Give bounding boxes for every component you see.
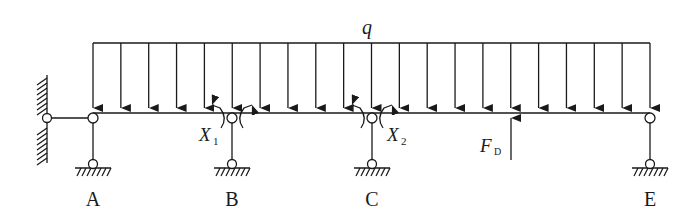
force-fd-subscript: D bbox=[494, 146, 501, 157]
pin-support-b-icon bbox=[214, 113, 250, 176]
load-label-q: q bbox=[362, 16, 372, 39]
support-label-b: B bbox=[225, 188, 238, 210]
pin-support-c-icon bbox=[354, 113, 390, 176]
redundant-moments bbox=[212, 105, 392, 128]
redundant-x1-symbol: X bbox=[198, 124, 212, 145]
pin-support-e-icon bbox=[632, 113, 668, 176]
supports bbox=[75, 113, 668, 176]
beam-diagram: q X 1 X 2 F D A B C E bbox=[0, 0, 699, 222]
wall-hinge-icon bbox=[43, 114, 52, 123]
redundant-x1-subscript: 1 bbox=[213, 135, 219, 147]
pin-support-a-icon bbox=[75, 113, 111, 176]
support-label-a: A bbox=[86, 188, 101, 210]
redundant-x2-symbol: X bbox=[386, 124, 400, 145]
support-label-e: E bbox=[644, 188, 656, 210]
force-fd-symbol: F bbox=[479, 135, 492, 156]
support-label-c: C bbox=[365, 188, 378, 210]
distributed-load-q bbox=[93, 43, 650, 108]
redundant-x2-subscript: 2 bbox=[401, 135, 407, 147]
